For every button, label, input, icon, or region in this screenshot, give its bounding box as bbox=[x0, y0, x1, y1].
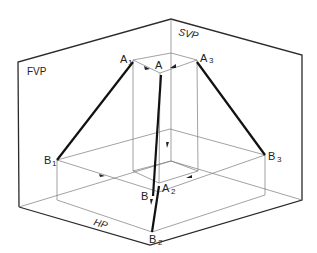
line-a3-b3 bbox=[197, 62, 265, 155]
point-a3: A 3 bbox=[200, 52, 214, 65]
point-b: B bbox=[141, 190, 148, 202]
projection-lines bbox=[57, 62, 265, 232]
projection-diagram: FVP SVP HP A 1 A A 3 B 1 B 3 A 2 B B 2 bbox=[0, 0, 317, 253]
svg-text:3: 3 bbox=[209, 56, 214, 65]
line-a1-b1 bbox=[57, 62, 133, 160]
svg-text:2: 2 bbox=[171, 187, 176, 196]
point-b3: B 3 bbox=[268, 150, 282, 164]
svg-text:1: 1 bbox=[128, 58, 133, 67]
point-b2: B 2 bbox=[149, 233, 163, 247]
point-a2: A 2 bbox=[162, 182, 176, 196]
arrow-markers bbox=[99, 64, 192, 205]
projectors bbox=[133, 60, 198, 183]
top-rhombus bbox=[133, 53, 197, 73]
label-fvp: FVP bbox=[27, 66, 47, 77]
svg-text:3: 3 bbox=[277, 155, 282, 164]
arrow-icon bbox=[186, 175, 192, 178]
svg-text:B: B bbox=[141, 190, 148, 202]
svg-text:B: B bbox=[149, 233, 156, 245]
svg-text:B: B bbox=[268, 150, 275, 162]
svg-text:B: B bbox=[44, 154, 51, 166]
line-a-b bbox=[153, 75, 161, 196]
svg-text:1: 1 bbox=[52, 159, 57, 168]
arrow-icon bbox=[166, 142, 169, 148]
svg-text:A: A bbox=[200, 52, 208, 64]
label-svp: SVP bbox=[178, 26, 200, 41]
svg-text:A: A bbox=[120, 53, 128, 65]
arrow-icon bbox=[150, 199, 153, 205]
svg-text:A: A bbox=[162, 182, 170, 194]
svg-text:2: 2 bbox=[158, 238, 163, 247]
point-a1: A 1 bbox=[120, 53, 133, 67]
svg-text:A: A bbox=[155, 59, 163, 71]
b-plane bbox=[19, 129, 302, 232]
point-b1: B 1 bbox=[44, 154, 57, 168]
point-a: A bbox=[155, 59, 163, 71]
lower-rhombus bbox=[133, 161, 198, 183]
